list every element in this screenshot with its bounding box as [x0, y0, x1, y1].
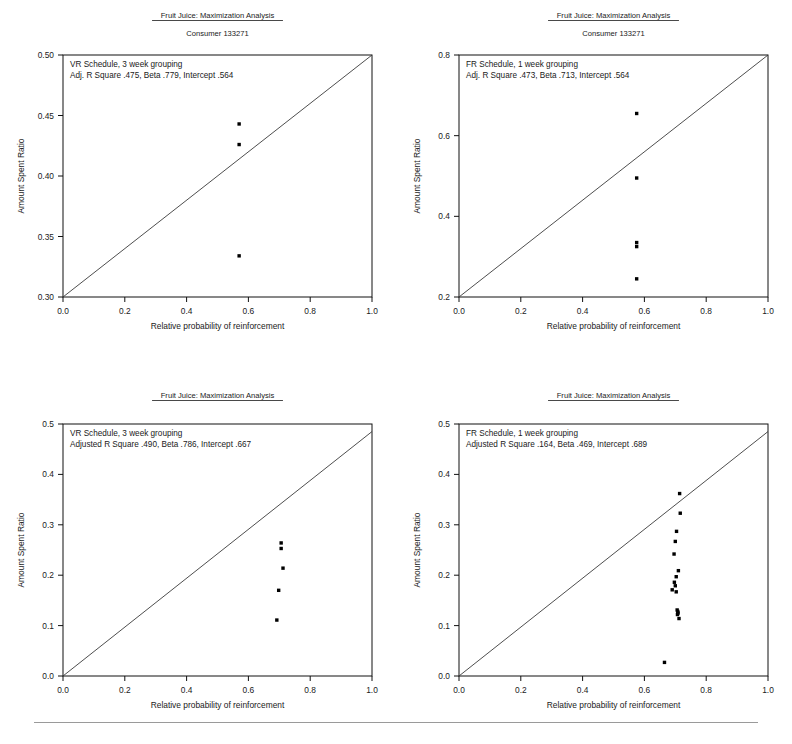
y-tick-label: 0.4: [438, 211, 450, 221]
data-point: [674, 584, 677, 587]
data-point: [675, 530, 678, 533]
chart-svg-top-right: Fruit Juice: Maximization AnalysisConsum…: [396, 0, 792, 372]
y-tick-label: 0.4: [438, 469, 450, 479]
x-tick-label: 1.0: [366, 685, 378, 695]
chart-subtitle: Consumer 133271: [186, 29, 248, 38]
y-tick-label: 0.2: [438, 292, 450, 302]
annotation-line-1: VR Schedule, 3 week grouping: [70, 60, 183, 69]
annotation-line-2: Adj. R Square .475, Beta .779, Intercept…: [70, 71, 234, 80]
x-axis-label: Relative probability of reinforcement: [547, 700, 681, 710]
x-tick-label: 0.0: [453, 685, 465, 695]
y-axis-label: Amount Spent Ratio: [412, 138, 422, 213]
annotation-line-1: FR Schedule, 1 week grouping: [466, 60, 578, 69]
plot-frame: [459, 424, 768, 676]
data-point: [635, 245, 638, 248]
x-tick-label: 0.6: [243, 685, 255, 695]
data-point: [635, 176, 638, 179]
data-point: [237, 254, 240, 257]
x-tick-label: 1.0: [366, 306, 378, 316]
y-tick-label: 0.40: [38, 171, 55, 181]
data-point: [673, 581, 676, 584]
plot-frame: [63, 424, 372, 676]
data-point-group: [663, 492, 682, 664]
chart-svg-top-left: Fruit Juice: Maximization AnalysisConsum…: [0, 0, 396, 372]
y-tick-label: 0.50: [38, 50, 55, 60]
chart-title: Fruit Juice: Maximization Analysis: [161, 11, 275, 20]
y-tick-label: 0.45: [38, 111, 55, 121]
data-point-group: [275, 541, 285, 622]
x-tick-label: 0.8: [304, 306, 316, 316]
data-point: [677, 569, 680, 572]
x-tick-label: 0.6: [639, 685, 651, 695]
x-tick-label: 0.0: [57, 685, 69, 695]
y-tick-label: 0.2: [42, 570, 54, 580]
data-point: [279, 541, 282, 544]
chart-svg-bottom-left: Fruit Juice: Maximization Analysis0.00.1…: [0, 376, 396, 744]
chart-title: Fruit Juice: Maximization Analysis: [557, 391, 671, 400]
data-point: [281, 566, 284, 569]
data-point: [677, 617, 680, 620]
chart-panel-bottom-left: Fruit Juice: Maximization Analysis0.00.1…: [0, 376, 396, 744]
data-point: [671, 588, 674, 591]
y-axis-label: Amount Spent Ratio: [16, 138, 26, 213]
x-tick-label: 0.2: [515, 685, 527, 695]
data-point-group: [635, 112, 638, 281]
y-tick-label: 0.8: [438, 50, 450, 60]
y-tick-label: 0.4: [42, 469, 54, 479]
data-point: [679, 512, 682, 515]
data-point: [635, 277, 638, 280]
data-point: [663, 661, 666, 664]
annotation-line-2: Adjusted R Square .490, Beta .786, Inter…: [70, 440, 252, 449]
x-tick-label: 0.6: [243, 306, 255, 316]
y-axis-label: Amount Spent Ratio: [16, 512, 26, 587]
x-tick-label: 0.2: [119, 685, 131, 695]
data-point: [237, 122, 240, 125]
data-point: [675, 590, 678, 593]
data-point: [635, 241, 638, 244]
x-axis-label: Relative probability of reinforcement: [547, 321, 681, 331]
y-tick-label: 0.30: [38, 292, 55, 302]
x-tick-label: 0.8: [304, 685, 316, 695]
chart-panel-top-left: Fruit Juice: Maximization AnalysisConsum…: [0, 0, 396, 372]
data-point: [275, 618, 278, 621]
chart-svg-bottom-right: Fruit Juice: Maximization Analysis0.00.1…: [396, 376, 792, 744]
y-tick-label: 0.0: [438, 671, 450, 681]
x-axis-label: Relative probability of reinforcement: [151, 700, 285, 710]
reference-diagonal-line: [63, 432, 372, 676]
x-tick-label: 0.2: [119, 306, 131, 316]
y-tick-label: 0.0: [42, 671, 54, 681]
annotation-line-2: Adjusted R Square .164, Beta .469, Inter…: [466, 440, 648, 449]
reference-diagonal-line: [459, 432, 768, 676]
data-point: [676, 613, 679, 616]
reference-diagonal-line: [459, 55, 768, 297]
y-tick-label: 0.6: [438, 131, 450, 141]
x-tick-label: 1.0: [762, 685, 774, 695]
annotation-line-1: FR Schedule, 1 week grouping: [466, 429, 578, 438]
data-point: [672, 552, 675, 555]
x-tick-label: 0.0: [453, 306, 465, 316]
x-tick-label: 1.0: [762, 306, 774, 316]
y-tick-label: 0.35: [38, 232, 55, 242]
x-tick-label: 0.4: [181, 685, 193, 695]
y-tick-label: 0.1: [42, 621, 54, 631]
annotation-line-2: Adj. R Square .473, Beta .713, Intercept…: [466, 71, 630, 80]
annotation-line-1: VR Schedule, 3 week grouping: [70, 429, 183, 438]
data-point-group: [237, 122, 240, 257]
x-tick-label: 0.4: [577, 306, 589, 316]
data-point: [675, 575, 678, 578]
x-tick-label: 0.4: [181, 306, 193, 316]
data-point: [279, 547, 282, 550]
reference-diagonal-line: [63, 55, 372, 297]
y-tick-label: 0.2: [438, 570, 450, 580]
chart-title: Fruit Juice: Maximization Analysis: [557, 11, 671, 20]
chart-subtitle: Consumer 133271: [582, 29, 644, 38]
y-tick-label: 0.5: [438, 419, 450, 429]
chart-title: Fruit Juice: Maximization Analysis: [161, 391, 275, 400]
x-tick-label: 0.0: [57, 306, 69, 316]
data-point: [678, 492, 681, 495]
y-tick-label: 0.3: [438, 520, 450, 530]
chart-panel-bottom-right: Fruit Juice: Maximization Analysis0.00.1…: [396, 376, 792, 744]
data-point: [674, 540, 677, 543]
x-tick-label: 0.2: [515, 306, 527, 316]
figure-sheet: Fruit Juice: Maximization AnalysisConsum…: [0, 0, 792, 744]
